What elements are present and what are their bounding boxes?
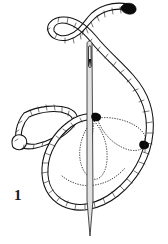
stitch-point-markers [91,113,149,152]
thread-free-end [121,3,136,14]
step-number-label: 1 [14,188,22,203]
stitch-diagram [0,0,168,244]
needle-shaft [87,41,93,236]
needle [87,41,93,236]
hidden-path-right [97,118,146,151]
entry-point-marker [91,113,101,122]
illustration-figure: 1 [0,0,168,244]
loop-knot [12,135,27,150]
hidden-path-lower-arc [62,168,125,186]
